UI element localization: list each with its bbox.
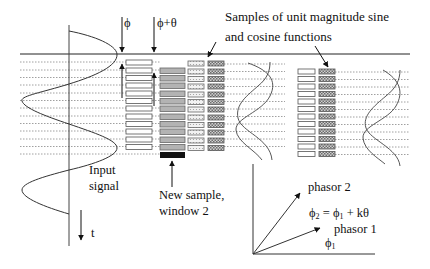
- sample-row-lines-right2: [335, 72, 410, 155]
- phasor-estimation-diagram: ϕ ϕ+θ Samples of unit magnitude sine and…: [0, 0, 430, 269]
- cosine-samples-column-2: [298, 69, 315, 157]
- phasor-angle-label: ϕ1: [325, 237, 336, 250]
- sample-row-lines-right1: [224, 64, 285, 147]
- sample-row-lines-mid: [152, 62, 160, 147]
- time-axis-label: t: [91, 227, 94, 240]
- window2-samples-column: [160, 68, 185, 150]
- new-sample-label-2: window 2: [159, 205, 209, 218]
- caption-line-2: and cosine functions: [225, 30, 332, 43]
- sine-samples-column-1: [208, 61, 224, 151]
- new-sample-label-1: New sample,: [159, 189, 224, 202]
- phasor-equation: ϕ2 = ϕ1 + kθ: [309, 207, 369, 220]
- sine-samples-column-2: [319, 69, 335, 157]
- window1-samples-column: [126, 60, 152, 150]
- caption-arrow-left: [208, 42, 216, 57]
- caption-arrow-right: [315, 46, 328, 67]
- input-signal-label-1: Input: [89, 164, 115, 177]
- phasor-1-label: phasor 1: [334, 223, 377, 236]
- caption-line-1: Samples of unit magnitude sine: [225, 10, 389, 23]
- cosine-samples-column-1: [188, 61, 204, 151]
- phi-theta-marker-label: ϕ+θ: [157, 17, 177, 30]
- phasor-2-label: phasor 2: [308, 181, 351, 194]
- phi-marker-label: ϕ: [124, 17, 131, 30]
- reference-sine-wave-1: [236, 63, 273, 160]
- input-signal-label-2: signal: [89, 180, 119, 193]
- new-sample-block: [160, 152, 185, 158]
